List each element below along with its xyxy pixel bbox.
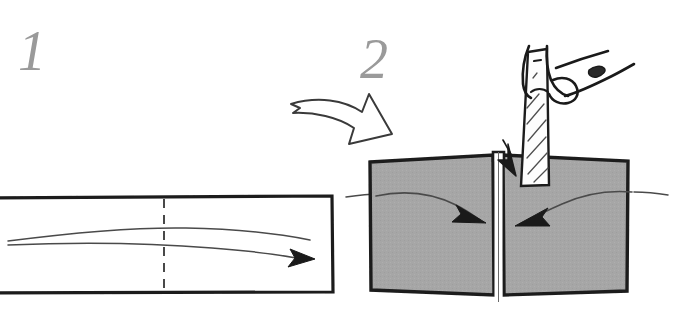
step-2-label: 2 [360, 28, 388, 90]
hand-knuckle-tick [534, 60, 541, 61]
illustration-canvas: 1 2 [0, 0, 690, 315]
step-1-label: 1 [18, 20, 46, 82]
board-left-half [370, 155, 494, 295]
joint-gap [493, 152, 504, 302]
board-left-outline [370, 155, 494, 295]
illustration-figure: 1 2 [0, 0, 690, 315]
